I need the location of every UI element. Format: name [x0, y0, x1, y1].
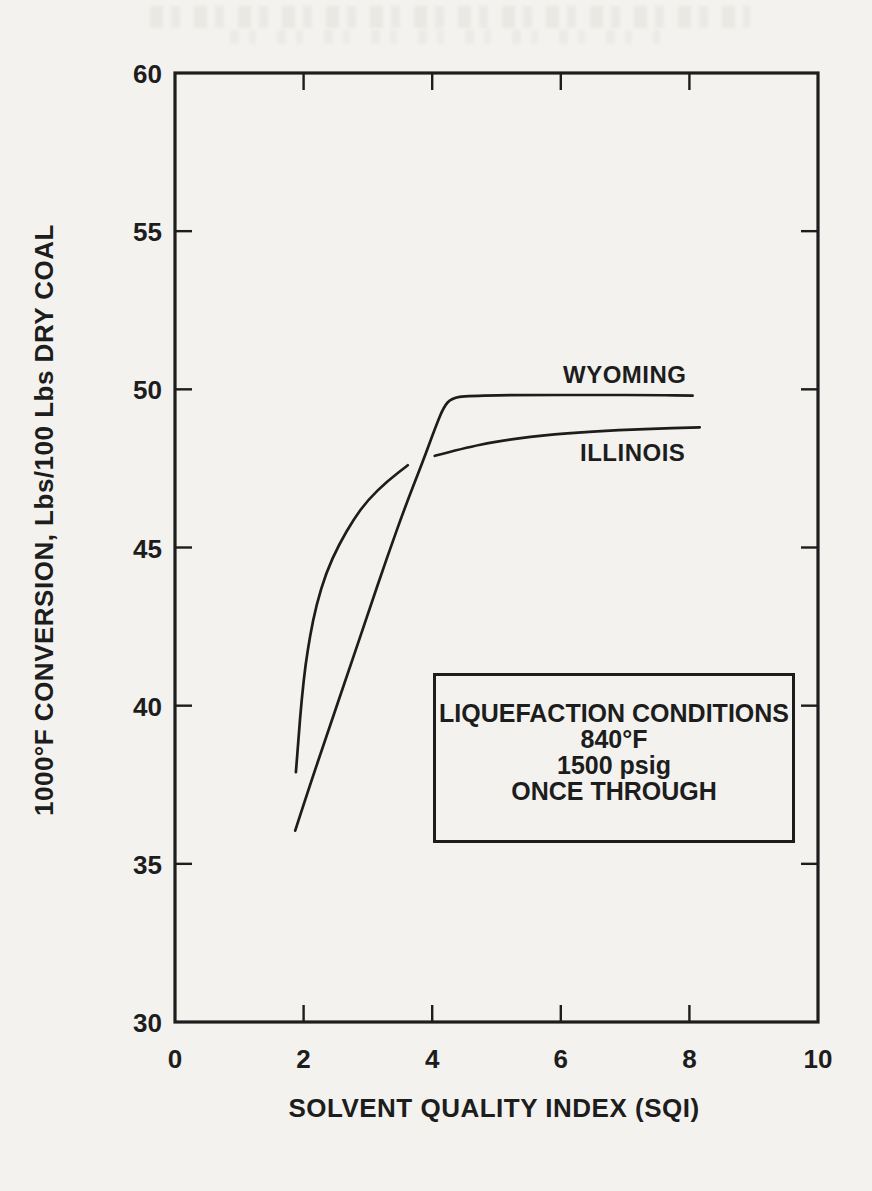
x-tick-label: 10	[778, 1046, 858, 1072]
conditions-line: ONCE THROUGH	[436, 778, 792, 804]
y-axis-title: 1000°F CONVERSION, Lbs/100 Lbs DRY COAL	[31, 224, 57, 816]
x-tick-label: 6	[521, 1046, 601, 1072]
conditions-line: 1500 psig	[436, 752, 792, 778]
conditions-line: LIQUEFACTION CONDITIONS	[436, 700, 792, 726]
x-tick-label: 4	[392, 1046, 472, 1072]
x-tick-label: 2	[264, 1046, 344, 1072]
x-tick-label: 8	[649, 1046, 729, 1072]
x-axis-title: SOLVENT QUALITY INDEX (SQI)	[288, 1095, 699, 1121]
scanned-page: 30354045505560 0246810 1000°F CONVERSION…	[0, 0, 872, 1191]
y-tick-label: 40	[133, 694, 162, 720]
liquefaction-conditions-box: LIQUEFACTION CONDITIONS 840°F 1500 psig …	[433, 673, 795, 843]
y-tick-label: 30	[133, 1010, 162, 1036]
illinois-curve-label: ILLINOIS	[580, 441, 685, 465]
wyoming-curve-label: WYOMING	[563, 363, 687, 387]
illinois-curve	[296, 465, 408, 772]
y-tick-label: 45	[133, 536, 162, 562]
y-tick-label: 50	[133, 377, 162, 403]
x-tick-label: 0	[135, 1046, 215, 1072]
plot-border	[175, 73, 818, 1022]
y-tick-label: 35	[133, 852, 162, 878]
conditions-line: 840°F	[436, 726, 792, 752]
chart-canvas	[0, 0, 872, 1191]
y-tick-label: 55	[133, 219, 162, 245]
y-tick-label: 60	[133, 61, 162, 87]
